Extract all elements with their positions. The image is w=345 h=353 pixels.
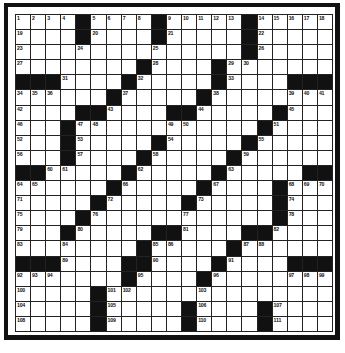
grid-cell[interactable]: 101 (107, 287, 122, 302)
grid-cell[interactable] (227, 302, 242, 317)
grid-cell[interactable] (197, 151, 212, 166)
grid-cell[interactable]: 12 (212, 15, 227, 30)
grid-cell[interactable] (152, 317, 167, 332)
grid-cell[interactable] (288, 136, 303, 151)
grid-cell[interactable]: 25 (152, 45, 167, 60)
grid-cell[interactable]: 14 (258, 15, 273, 30)
grid-cell[interactable] (107, 211, 122, 226)
grid-cell[interactable]: 73 (197, 196, 212, 211)
grid-cell[interactable] (91, 226, 106, 241)
grid-cell[interactable] (303, 121, 318, 136)
grid-cell[interactable]: 60 (46, 166, 61, 181)
grid-cell[interactable]: 57 (76, 151, 91, 166)
grid-cell[interactable] (152, 166, 167, 181)
grid-cell[interactable] (46, 181, 61, 196)
grid-cell[interactable] (31, 121, 46, 136)
grid-cell[interactable]: 42 (16, 106, 31, 121)
grid-cell[interactable]: 68 (288, 181, 303, 196)
grid-cell[interactable] (258, 181, 273, 196)
grid-cell[interactable] (227, 211, 242, 226)
grid-cell[interactable] (227, 106, 242, 121)
grid-cell[interactable]: 39 (288, 90, 303, 105)
grid-cell[interactable] (31, 60, 46, 75)
grid-cell[interactable] (182, 30, 197, 45)
grid-cell[interactable] (242, 75, 257, 90)
grid-cell[interactable] (273, 151, 288, 166)
grid-cell[interactable]: 102 (122, 287, 137, 302)
grid-cell[interactable]: 44 (197, 106, 212, 121)
grid-cell[interactable]: 88 (258, 241, 273, 256)
grid-cell[interactable] (31, 196, 46, 211)
grid-cell[interactable]: 109 (107, 317, 122, 332)
grid-cell[interactable]: 37 (122, 90, 137, 105)
grid-cell[interactable]: 38 (212, 90, 227, 105)
grid-cell[interactable] (197, 136, 212, 151)
grid-cell[interactable] (212, 287, 227, 302)
grid-cell[interactable] (137, 196, 152, 211)
grid-cell[interactable] (167, 317, 182, 332)
grid-cell[interactable] (46, 302, 61, 317)
grid-cell[interactable] (61, 287, 76, 302)
grid-cell[interactable] (122, 60, 137, 75)
grid-cell[interactable]: 94 (46, 272, 61, 287)
grid-cell[interactable]: 6 (107, 15, 122, 30)
grid-cell[interactable] (288, 317, 303, 332)
grid-cell[interactable] (61, 45, 76, 60)
grid-cell[interactable]: 62 (137, 166, 152, 181)
grid-cell[interactable] (258, 75, 273, 90)
grid-cell[interactable]: 28 (152, 60, 167, 75)
grid-cell[interactable]: 95 (137, 272, 152, 287)
grid-cell[interactable] (76, 257, 91, 272)
grid-cell[interactable]: 111 (273, 317, 288, 332)
grid-cell[interactable] (137, 106, 152, 121)
grid-cell[interactable]: 66 (122, 181, 137, 196)
grid-cell[interactable] (137, 302, 152, 317)
grid-cell[interactable]: 107 (273, 302, 288, 317)
grid-cell[interactable] (61, 60, 76, 75)
grid-cell[interactable] (227, 196, 242, 211)
grid-cell[interactable]: 105 (107, 302, 122, 317)
grid-cell[interactable] (137, 136, 152, 151)
grid-cell[interactable] (212, 30, 227, 45)
grid-cell[interactable]: 19 (16, 30, 31, 45)
grid-cell[interactable] (167, 287, 182, 302)
grid-cell[interactable] (197, 30, 212, 45)
grid-cell[interactable]: 26 (258, 45, 273, 60)
grid-cell[interactable] (273, 60, 288, 75)
grid-cell[interactable] (227, 121, 242, 136)
grid-cell[interactable] (137, 317, 152, 332)
grid-cell[interactable] (318, 121, 333, 136)
grid-cell[interactable] (61, 317, 76, 332)
grid-cell[interactable] (46, 226, 61, 241)
grid-cell[interactable]: 10 (182, 15, 197, 30)
grid-cell[interactable] (212, 241, 227, 256)
grid-cell[interactable]: 22 (258, 30, 273, 45)
grid-cell[interactable] (91, 166, 106, 181)
grid-cell[interactable] (182, 136, 197, 151)
grid-cell[interactable]: 93 (31, 272, 46, 287)
grid-cell[interactable]: 20 (91, 30, 106, 45)
grid-cell[interactable] (61, 30, 76, 45)
grid-cell[interactable] (303, 151, 318, 166)
grid-cell[interactable] (318, 45, 333, 60)
grid-cell[interactable] (227, 30, 242, 45)
grid-cell[interactable]: 9 (167, 15, 182, 30)
grid-cell[interactable] (318, 211, 333, 226)
grid-cell[interactable]: 97 (288, 272, 303, 287)
grid-cell[interactable] (46, 241, 61, 256)
grid-cell[interactable]: 51 (273, 121, 288, 136)
grid-cell[interactable] (152, 75, 167, 90)
grid-cell[interactable] (31, 226, 46, 241)
grid-cell[interactable] (318, 196, 333, 211)
grid-cell[interactable] (46, 317, 61, 332)
grid-cell[interactable] (122, 226, 137, 241)
grid-cell[interactable] (76, 75, 91, 90)
grid-cell[interactable] (152, 287, 167, 302)
grid-cell[interactable]: 76 (91, 211, 106, 226)
grid-cell[interactable] (197, 211, 212, 226)
grid-cell[interactable]: 59 (242, 151, 257, 166)
grid-cell[interactable] (273, 45, 288, 60)
grid-cell[interactable] (61, 90, 76, 105)
grid-cell[interactable] (46, 151, 61, 166)
grid-cell[interactable] (122, 302, 137, 317)
